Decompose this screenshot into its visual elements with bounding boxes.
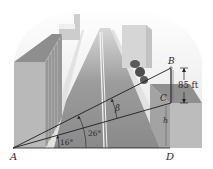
diagram-canvas: A D B C h 85 ft 16° 26° β — [0, 0, 213, 169]
left-building-front — [14, 62, 45, 148]
right-building-front — [170, 103, 202, 148]
label-point-C: C — [160, 94, 167, 103]
label-angle-beta: β — [115, 104, 120, 113]
label-h: h — [163, 117, 168, 125]
label-angle-26: 26° — [88, 130, 101, 138]
label-point-D: D — [166, 152, 174, 162]
label-point-A: A — [10, 152, 17, 162]
label-point-B: B — [168, 57, 175, 66]
label-85ft: 85 ft — [178, 81, 198, 90]
label-angle-16: 16° — [60, 139, 73, 147]
